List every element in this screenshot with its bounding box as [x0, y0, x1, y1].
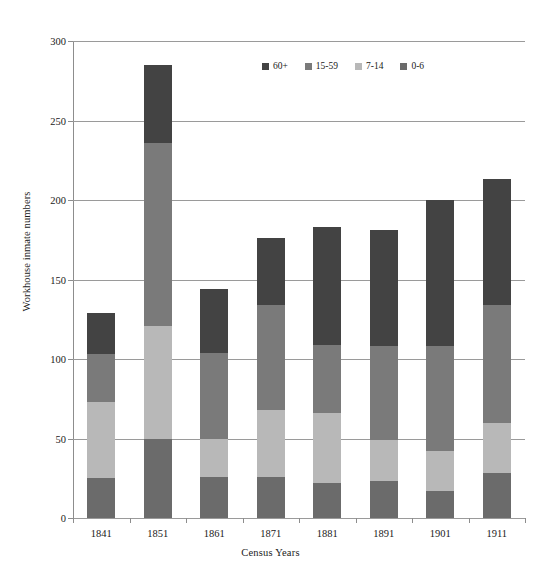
legend-item-7-14[interactable]: 7-14: [355, 62, 383, 72]
bar-segment-1871-60+[interactable]: [257, 238, 285, 305]
bar-segment-1841-7-14[interactable]: [87, 402, 115, 478]
bar-group-1851[interactable]: [144, 65, 172, 518]
x-tick-label-1871: 1871: [260, 528, 281, 539]
bar-group-1911[interactable]: [483, 179, 511, 518]
y-tick-label-150: 150: [50, 274, 66, 285]
legend-label-15-59: 15-59: [316, 62, 338, 72]
bar-segment-1891-0-6[interactable]: [370, 481, 398, 518]
bar-segment-1901-0-6[interactable]: [426, 491, 454, 518]
y-tick-label-50: 50: [56, 433, 67, 444]
x-tick-label-1841: 1841: [91, 528, 112, 539]
x-tick-mark-4: [299, 518, 300, 523]
x-tick-label-1881: 1881: [317, 528, 338, 539]
x-tick-mark-1: [130, 518, 131, 523]
y-tick-label-100: 100: [50, 354, 66, 365]
bar-segment-1851-0-6[interactable]: [144, 439, 172, 519]
y-tick-label-250: 250: [50, 115, 66, 126]
chart-legend: 60+15-597-140-6: [262, 62, 424, 72]
bar-group-1871[interactable]: [257, 238, 285, 518]
bar-segment-1891-15-59[interactable]: [370, 346, 398, 440]
bar-segment-1911-7-14[interactable]: [483, 423, 511, 474]
bar-segment-1861-60+[interactable]: [200, 289, 228, 353]
bar-segment-1901-7-14[interactable]: [426, 451, 454, 491]
legend-swatch-icon-0-6: [400, 63, 407, 70]
bar-group-1891[interactable]: [370, 230, 398, 518]
legend-swatch-icon-7-14: [355, 63, 362, 70]
bar-segment-1871-7-14[interactable]: [257, 410, 285, 477]
x-tick-mark-5: [356, 518, 357, 523]
bars-layer: [73, 41, 525, 518]
legend-swatch-icon-15-59: [305, 63, 312, 70]
x-tick-label-1901: 1901: [430, 528, 451, 539]
bar-group-1881[interactable]: [313, 227, 341, 518]
bar-segment-1901-60+[interactable]: [426, 200, 454, 346]
bar-segment-1871-0-6[interactable]: [257, 477, 285, 518]
legend-item-60+[interactable]: 60+: [262, 62, 288, 72]
bar-group-1861[interactable]: [200, 289, 228, 518]
x-tick-mark-0: [73, 518, 74, 523]
legend-item-0-6[interactable]: 0-6: [400, 62, 424, 72]
x-tick-mark-2: [186, 518, 187, 523]
legend-label-60+: 60+: [273, 62, 288, 72]
plot-area: 050100150200250300 184118511861187118811…: [73, 41, 525, 518]
bar-group-1901[interactable]: [426, 200, 454, 518]
bar-segment-1851-7-14[interactable]: [144, 326, 172, 439]
legend-label-7-14: 7-14: [366, 62, 383, 72]
bar-segment-1881-15-59[interactable]: [313, 345, 341, 413]
bar-segment-1911-0-6[interactable]: [483, 473, 511, 518]
x-tick-label-1891: 1891: [373, 528, 394, 539]
bar-segment-1911-60+[interactable]: [483, 179, 511, 305]
bar-segment-1861-15-59[interactable]: [200, 353, 228, 439]
y-tick-label-0: 0: [61, 513, 66, 524]
x-tick-label-1911: 1911: [486, 528, 507, 539]
bar-segment-1901-15-59[interactable]: [426, 346, 454, 451]
legend-swatch-icon-60+: [262, 63, 269, 70]
x-tick-label-1851: 1851: [147, 528, 168, 539]
stacked-bar-chart: Workhouse inmate numbers 050100150200250…: [0, 0, 541, 575]
y-tick-label-300: 300: [50, 36, 66, 47]
bar-group-1841[interactable]: [87, 313, 115, 518]
bar-segment-1861-0-6[interactable]: [200, 477, 228, 518]
bar-segment-1881-60+[interactable]: [313, 227, 341, 345]
bar-segment-1891-60+[interactable]: [370, 230, 398, 346]
x-tick-mark-7: [469, 518, 470, 523]
x-tick-mark-3: [243, 518, 244, 523]
bar-segment-1841-0-6[interactable]: [87, 478, 115, 518]
x-tick-label-1861: 1861: [204, 528, 225, 539]
bar-segment-1851-60+[interactable]: [144, 65, 172, 143]
bar-segment-1881-0-6[interactable]: [313, 483, 341, 518]
legend-label-0-6: 0-6: [411, 62, 424, 72]
legend-item-15-59[interactable]: 15-59: [305, 62, 338, 72]
y-axis-title: Workhouse inmate numbers: [21, 152, 32, 352]
bar-segment-1871-15-59[interactable]: [257, 305, 285, 410]
y-tick-label-200: 200: [50, 195, 66, 206]
x-tick-mark-end: [525, 518, 526, 523]
bar-segment-1851-15-59[interactable]: [144, 143, 172, 326]
x-axis-title: Census Years: [0, 547, 541, 558]
bar-segment-1841-60+[interactable]: [87, 313, 115, 354]
bar-segment-1891-7-14[interactable]: [370, 440, 398, 481]
bar-segment-1841-15-59[interactable]: [87, 354, 115, 402]
x-tick-mark-6: [412, 518, 413, 523]
bar-segment-1911-15-59[interactable]: [483, 305, 511, 423]
bar-segment-1881-7-14[interactable]: [313, 413, 341, 483]
bar-segment-1861-7-14[interactable]: [200, 439, 228, 477]
